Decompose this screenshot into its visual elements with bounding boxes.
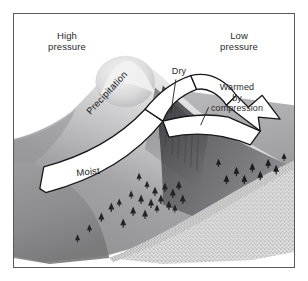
diagram-frame: High pressure Low pressure Dry Warmed by…	[13, 13, 295, 268]
label-dry: Dry	[162, 66, 196, 77]
figure-root: High pressure Low pressure Dry Warmed by…	[0, 0, 308, 281]
label-warmed-by-compression: Warmed by compression	[194, 82, 280, 114]
label-low-pressure: Low pressure	[206, 30, 272, 52]
label-high-pressure: High pressure	[34, 30, 100, 52]
